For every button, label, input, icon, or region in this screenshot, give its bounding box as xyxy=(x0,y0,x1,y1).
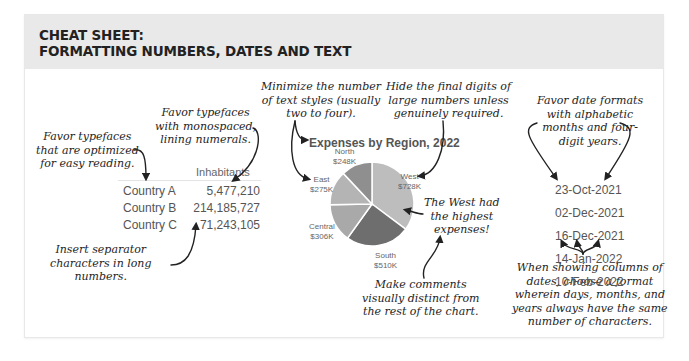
arrow-digits-to-west xyxy=(420,121,444,176)
arrow-dateformat-right xyxy=(606,123,630,178)
arrow-monospaced-to-values xyxy=(234,128,258,180)
arrow-columns-year xyxy=(583,242,598,254)
arrow-dateformat-left xyxy=(529,123,556,178)
arrow-styles-to-east xyxy=(292,121,308,179)
arrow-comment-to-west xyxy=(406,210,423,214)
arrow-readable-to-table xyxy=(134,150,146,178)
arrow-distinct-to-comment xyxy=(423,238,440,278)
arrow-columns-month xyxy=(577,242,583,254)
arrow-separators-to-values xyxy=(171,225,196,265)
arrow-styles-to-title xyxy=(295,121,306,140)
annotation-arrows xyxy=(0,0,689,361)
